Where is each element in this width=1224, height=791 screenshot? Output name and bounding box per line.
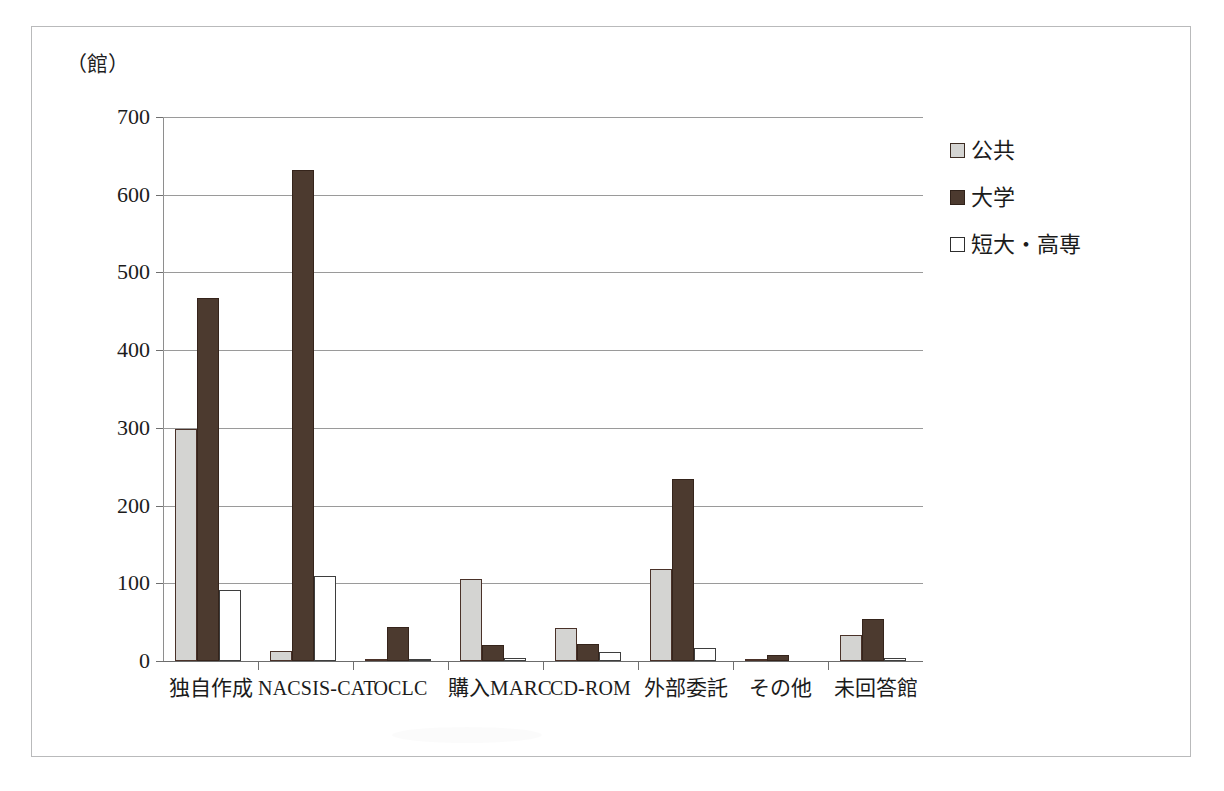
plot-area: 0100200300400500600700 独自作成NACSIS-CATOCL… — [163, 117, 923, 687]
bar — [577, 644, 599, 661]
bar — [599, 652, 621, 661]
y-axis-tick-label: 200 — [117, 494, 150, 516]
y-axis-tick — [156, 583, 163, 584]
legend-label: 大学 — [971, 187, 1015, 209]
y-axis-tick-label: 300 — [117, 416, 150, 438]
bar — [555, 628, 577, 661]
bar-group — [460, 117, 526, 661]
bar — [840, 635, 862, 661]
legend-swatch-icon — [950, 237, 965, 252]
x-axis-tick — [543, 662, 544, 670]
x-axis-label: OCLC — [353, 678, 448, 698]
bar — [197, 298, 219, 661]
bar — [650, 569, 672, 661]
y-axis-line — [163, 117, 164, 662]
x-axis-tick — [638, 662, 639, 670]
bar — [482, 645, 504, 661]
bar-group — [175, 117, 241, 661]
x-axis-tick — [353, 662, 354, 670]
y-axis-tick-label: 600 — [117, 183, 150, 205]
bar-group-bars — [460, 117, 526, 661]
x-axis-label: CD-ROM — [543, 678, 638, 698]
x-axis-label: 未回答館 — [828, 678, 923, 699]
y-axis-tick-label: 0 — [139, 650, 150, 672]
bar — [219, 590, 241, 661]
bar-group — [650, 117, 716, 661]
bar-group-bars — [745, 117, 811, 661]
x-axis-label: 購入MARC — [448, 678, 543, 699]
y-axis-tick — [156, 661, 163, 662]
bar-group-bars — [270, 117, 336, 661]
y-axis-tick — [156, 506, 163, 507]
legend-swatch-icon — [950, 143, 965, 158]
bar — [409, 659, 431, 661]
bar — [745, 659, 767, 661]
figure-frame: （館） 0100200300400500600700 独自作成NACSIS-CA… — [31, 26, 1191, 757]
bar — [175, 429, 197, 661]
legend-item: 大学 — [950, 174, 1081, 221]
bar — [767, 655, 789, 661]
bar-group — [840, 117, 906, 661]
bar-group-bars — [365, 117, 431, 661]
x-axis-label: NACSIS-CAT — [258, 678, 353, 698]
plot-inner: 0100200300400500600700 独自作成NACSIS-CATOCL… — [163, 117, 923, 661]
legend-label: 短大・高専 — [971, 234, 1081, 256]
bar — [292, 170, 314, 661]
y-axis-tick-label: 700 — [117, 106, 150, 128]
bar-group — [365, 117, 431, 661]
legend-item: 公共 — [950, 127, 1081, 174]
x-axis-tick — [448, 662, 449, 670]
bar — [504, 658, 526, 661]
bar — [365, 659, 387, 661]
y-axis-tick-label: 100 — [117, 572, 150, 594]
x-axis-label: その他 — [733, 678, 828, 699]
y-axis-tick-label: 400 — [117, 339, 150, 361]
bar-group-bars — [840, 117, 906, 661]
y-axis-tick — [156, 195, 163, 196]
y-axis-tick — [156, 428, 163, 429]
bar — [270, 651, 292, 661]
x-axis-tick — [258, 662, 259, 670]
y-axis-tick — [156, 272, 163, 273]
bar — [460, 579, 482, 661]
bar — [862, 619, 884, 661]
bar-group-bars — [650, 117, 716, 661]
legend-swatch-icon — [950, 190, 965, 205]
bar — [387, 627, 409, 661]
legend-label: 公共 — [971, 140, 1015, 162]
bar — [314, 576, 336, 661]
y-axis-tick — [156, 117, 163, 118]
y-axis-tick-label: 500 — [117, 261, 150, 283]
bar-group — [745, 117, 811, 661]
bar-group-bars — [175, 117, 241, 661]
scan-artifact — [392, 727, 542, 743]
bar-group — [270, 117, 336, 661]
y-axis-unit-label: （館） — [66, 47, 129, 77]
bar-group-bars — [555, 117, 621, 661]
y-axis-tick — [156, 350, 163, 351]
bar — [884, 658, 906, 661]
bar — [672, 479, 694, 661]
bar-group — [555, 117, 621, 661]
legend-item: 短大・高専 — [950, 221, 1081, 268]
x-axis-tick — [733, 662, 734, 670]
x-axis-tick — [828, 662, 829, 670]
x-axis-label: 独自作成 — [163, 678, 258, 699]
x-axis-label: 外部委託 — [638, 678, 733, 699]
legend: 公共大学短大・高専 — [950, 127, 1081, 268]
bar — [694, 648, 716, 661]
